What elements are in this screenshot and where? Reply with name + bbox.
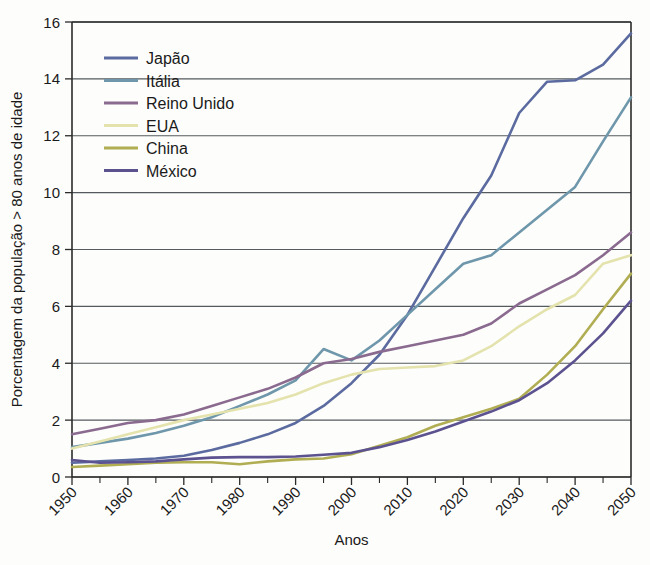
- y-tick-label: 8: [52, 241, 60, 258]
- legend-label-eua: EUA: [146, 118, 179, 135]
- x-tick-label: 1950: [45, 483, 81, 519]
- y-tick-label: 6: [52, 298, 60, 315]
- x-axis-title: Anos: [334, 531, 368, 548]
- series-line-china: [72, 274, 631, 467]
- x-tick-label: 1980: [212, 483, 248, 519]
- series-line-reino-unido: [72, 232, 631, 434]
- x-tick-label: 1970: [156, 483, 192, 519]
- y-axis-ticks: 0246810121416: [43, 14, 72, 486]
- y-axis-title: Porcentagem da população > 80 anos de id…: [8, 92, 25, 408]
- x-tick-label: 2030: [492, 483, 528, 519]
- x-tick-label: 1960: [100, 483, 136, 519]
- x-tick-label: 1990: [268, 483, 304, 519]
- legend-label-it-lia: Itália: [146, 73, 180, 90]
- legend-label-reino-unido: Reino Unido: [146, 95, 234, 112]
- y-tick-label: 2: [52, 412, 60, 429]
- x-tick-label: 2020: [436, 483, 472, 519]
- y-tick-label: 0: [52, 469, 60, 486]
- x-tick-label: 2040: [548, 483, 584, 519]
- legend-label-jap-o: Japão: [146, 50, 190, 67]
- line-chart: 0246810121416 19501960197019801990200020…: [0, 0, 650, 565]
- y-tick-label: 16: [43, 14, 60, 31]
- x-axis-ticks: 1950196019701980199020002010202020302040…: [45, 477, 640, 519]
- x-tick-label: 2050: [604, 483, 640, 519]
- chart-legend: JapãoItáliaReino UnidoEUAChinaMéxico: [104, 50, 234, 180]
- gridlines: [72, 22, 631, 477]
- y-tick-label: 4: [52, 355, 60, 372]
- y-tick-label: 12: [43, 127, 60, 144]
- y-tick-label: 10: [43, 184, 60, 201]
- legend-label-m-xico: México: [146, 163, 197, 180]
- x-tick-label: 2000: [324, 483, 360, 519]
- chart-container: 0246810121416 19501960197019801990200020…: [0, 0, 650, 565]
- x-tick-label: 2010: [380, 483, 416, 519]
- legend-label-china: China: [146, 140, 188, 157]
- y-tick-label: 14: [43, 70, 60, 87]
